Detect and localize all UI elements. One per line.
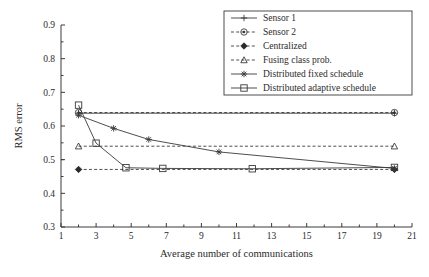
- y-tick-label: 0.8: [43, 54, 55, 64]
- legend-label: Sensor 2: [263, 27, 296, 37]
- y-tick-label: 0.9: [43, 20, 55, 30]
- y-tick-label: 0.5: [43, 155, 55, 165]
- x-tick-label: 13: [267, 231, 277, 241]
- legend-label: Fusing class prob.: [263, 55, 332, 65]
- y-axis: 0.30.40.50.60.70.80.9: [43, 20, 65, 232]
- x-tick-label: 3: [94, 231, 99, 241]
- y-tick-label: 0.3: [43, 222, 55, 232]
- y-axis-title: RMS error: [13, 103, 24, 149]
- x-tick-label: 17: [337, 231, 347, 241]
- y-tick-label: 0.7: [43, 88, 55, 98]
- chart-canvas: 0.30.40.50.60.70.80.913579111315171921Av…: [0, 0, 429, 277]
- x-tick-label: 11: [232, 231, 241, 241]
- legend-label: Sensor 1: [263, 13, 296, 23]
- x-tick-label: 9: [199, 231, 204, 241]
- legend-label: Centralized: [263, 41, 307, 51]
- x-tick-label: 7: [164, 231, 169, 241]
- x-axis-title: Average number of communications: [160, 248, 313, 259]
- x-axis: 13579111315171921: [59, 223, 417, 241]
- y-tick-label: 0.6: [43, 121, 55, 131]
- legend-label: Distributed adaptive schedule: [263, 83, 376, 93]
- y-tick-label: 0.4: [43, 189, 55, 199]
- series-sensor-2: [75, 109, 397, 115]
- legend: Sensor 1Sensor 2CentralizedFusing class …: [224, 11, 412, 95]
- x-tick-label: 21: [407, 231, 417, 241]
- x-tick-label: 1: [59, 231, 64, 241]
- series-fusing-class-prob: [75, 143, 397, 149]
- x-tick-label: 19: [372, 231, 382, 241]
- chart-figure: 0.30.40.50.60.70.80.913579111315171921Av…: [0, 0, 429, 277]
- series-sensor-1: [75, 110, 397, 116]
- x-tick-label: 5: [129, 231, 134, 241]
- series-centralized: [75, 166, 397, 172]
- x-tick-label: 15: [302, 231, 312, 241]
- legend-label: Distributed fixed schedule: [263, 69, 363, 79]
- series-distributed-fixed-schedule: [75, 112, 397, 172]
